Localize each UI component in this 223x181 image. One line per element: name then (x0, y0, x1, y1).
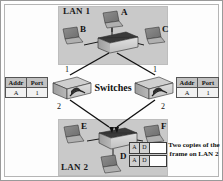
host-b-label: B (80, 24, 86, 34)
host-a-icon (103, 11, 123, 32)
host-d-label: D (120, 151, 127, 161)
switches-label: Switches (87, 82, 139, 93)
frame-copy-1-dest: A (130, 143, 140, 153)
switch-left-port-bottom-label: 2 (57, 102, 61, 111)
lan1-label: LAN 1 (63, 6, 90, 16)
frame-copy-1-payload (150, 143, 166, 153)
address-table-left-addr: A (6, 88, 27, 98)
address-table-left: Addr Port A 1 (5, 77, 48, 98)
switch-left (53, 77, 91, 99)
switch-right (135, 77, 173, 99)
host-d-icon (101, 155, 121, 173)
lan1-hub (98, 32, 138, 53)
network-diagram-figure: LAN 1 LAN 2 A B C E F D 1 2 1 2 Switches… (0, 0, 223, 181)
address-table-right-header-addr: Addr (177, 78, 198, 88)
table-row: A 1 (177, 88, 219, 98)
address-table-right-header-port: Port (198, 78, 219, 88)
address-table-left-header-addr: Addr (6, 78, 27, 88)
switch-right-port-top-label: 1 (153, 65, 157, 74)
address-table-right: Addr Port A 1 (176, 77, 219, 98)
switch-left-port-top-label: 1 (65, 65, 69, 74)
address-table-right-addr: A (177, 88, 198, 98)
address-table-left-port: 1 (27, 88, 48, 98)
host-a-label: A (121, 7, 128, 17)
address-table-left-header-port: Port (27, 78, 48, 88)
address-table-right-port: 1 (198, 88, 219, 98)
switch-right-port-bottom-label: 2 (161, 102, 165, 111)
frame-copy-1: A D (129, 142, 167, 154)
table-row: A 1 (6, 88, 48, 98)
frame-copy-2-src: D (140, 156, 150, 166)
host-e-label: E (81, 121, 87, 131)
host-c-label: C (162, 24, 169, 34)
frame-copy-2-payload (150, 156, 166, 166)
lan2-label: LAN 2 (61, 162, 88, 172)
host-f-label: F (161, 121, 167, 131)
frame-duplication-caption: Two copies of the frame on LAN 2 (166, 141, 222, 158)
frame-copy-1-src: D (140, 143, 150, 153)
frame-copy-2: A D (129, 155, 167, 167)
frame-copy-2-dest: A (130, 156, 140, 166)
